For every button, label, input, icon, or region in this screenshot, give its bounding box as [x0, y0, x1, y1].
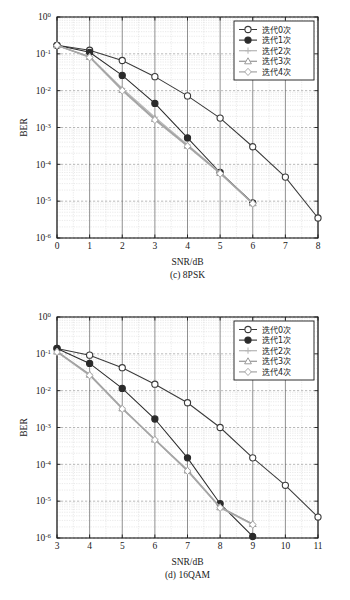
- x-tick-label: 3: [55, 541, 60, 551]
- chart-16qam-svg: 3456789101110010-110-210-310-410-510-6迭代…: [0, 300, 350, 600]
- legend: 迭代0次迭代1次迭代2次迭代3次迭代4次: [234, 21, 314, 80]
- x-axis-title: SNR/dB: [171, 557, 203, 567]
- y-tick-label: 10-6: [36, 532, 52, 544]
- y-axis-title: BER: [19, 418, 29, 437]
- x-tick-label: 4: [185, 241, 190, 251]
- legend: 迭代0次迭代1次迭代2次迭代3次迭代4次: [234, 321, 314, 380]
- x-axis-title: SNR/dB: [171, 257, 203, 267]
- y-tick-label: 10-3: [36, 421, 52, 433]
- x-tick-label: 6: [250, 241, 255, 251]
- x-tick-label: 1: [87, 241, 92, 251]
- y-tick-label: 10-6: [36, 232, 52, 244]
- legend-item-label: 迭代0次: [262, 25, 291, 35]
- y-tick-label: 10-1: [36, 48, 51, 60]
- x-tick-label: 7: [185, 541, 190, 551]
- legend-item-label: 迭代1次: [262, 335, 291, 345]
- chart-caption: (d) 16QAM: [165, 570, 211, 581]
- y-tick-label: 10-4: [36, 458, 52, 470]
- legend-item-label: 迭代4次: [262, 67, 291, 77]
- x-tick-label: 8: [218, 541, 223, 551]
- x-tick-label: 0: [55, 241, 60, 251]
- y-tick-label: 10-3: [36, 121, 52, 133]
- x-tick-label: 5: [120, 541, 125, 551]
- y-tick-label: 100: [38, 311, 52, 323]
- x-tick-label: 11: [313, 541, 322, 551]
- legend-item-label: 迭代3次: [262, 356, 291, 366]
- x-tick-label: 3: [153, 241, 158, 251]
- figure-page: 01234567810010-110-210-310-410-510-6迭代0次…: [0, 0, 350, 600]
- x-tick-label: 5: [218, 241, 223, 251]
- legend-item-label: 迭代4次: [262, 367, 291, 377]
- x-tick-label: 7: [283, 241, 288, 251]
- legend-item-label: 迭代0次: [262, 325, 291, 335]
- y-tick-label: 10-2: [36, 84, 52, 96]
- legend-item-label: 迭代2次: [262, 46, 291, 56]
- x-tick-label: 8: [316, 241, 321, 251]
- x-tick-label: 6: [153, 541, 158, 551]
- legend-item-label: 迭代1次: [262, 35, 291, 45]
- x-tick-label: 9: [250, 541, 255, 551]
- x-tick-label: 10: [281, 541, 291, 551]
- legend-item-label: 迭代3次: [262, 56, 291, 66]
- chart-16qam: 3456789101110010-110-210-310-410-510-6迭代…: [0, 300, 350, 600]
- x-tick-label: 4: [87, 541, 92, 551]
- y-tick-label: 10-5: [36, 195, 52, 207]
- chart-caption: (c) 8PSK: [170, 270, 205, 281]
- x-tick-label: 2: [120, 241, 125, 251]
- chart-8psk-svg: 01234567810010-110-210-310-410-510-6迭代0次…: [0, 0, 350, 300]
- y-tick-label: 10-1: [36, 348, 51, 360]
- y-tick-label: 10-2: [36, 384, 52, 396]
- y-tick-label: 100: [38, 11, 52, 23]
- legend-item-label: 迭代2次: [262, 346, 291, 356]
- chart-8psk: 01234567810010-110-210-310-410-510-6迭代0次…: [0, 0, 350, 300]
- y-tick-label: 10-5: [36, 495, 52, 507]
- y-tick-label: 10-4: [36, 158, 52, 170]
- y-axis-title: BER: [19, 118, 29, 137]
